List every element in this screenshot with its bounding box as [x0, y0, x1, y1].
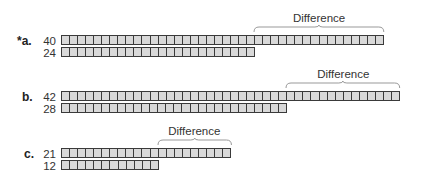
unit-cell	[134, 48, 141, 56]
unit-cell	[126, 149, 133, 157]
unit-cell	[151, 161, 158, 169]
unit-cell	[207, 92, 214, 100]
unit-cell	[207, 48, 214, 56]
unit-cell	[239, 48, 246, 56]
unit-cell	[247, 48, 254, 56]
unit-cell	[110, 149, 117, 157]
unit-cell	[191, 48, 198, 56]
unit-cell	[110, 36, 117, 44]
bottom-bar	[61, 160, 159, 170]
unit-cell	[126, 92, 133, 100]
unit-cell	[102, 48, 109, 56]
unit-cell	[86, 104, 93, 112]
unit-cell	[110, 48, 117, 56]
unit-cell	[70, 161, 77, 169]
top-value: 42	[36, 91, 56, 103]
unit-cell	[102, 92, 109, 100]
unit-cell	[151, 36, 158, 44]
unit-cell	[279, 104, 286, 112]
unit-cell	[78, 104, 85, 112]
unit-cell	[263, 36, 270, 44]
unit-cell	[263, 104, 270, 112]
unit-cell	[94, 161, 101, 169]
unit-cell	[127, 161, 134, 169]
bottom-value: 24	[36, 47, 56, 59]
unit-cell	[328, 36, 335, 44]
unit-cell	[215, 48, 222, 56]
unit-cell	[223, 36, 230, 44]
unit-cell	[191, 36, 198, 44]
unit-cell	[86, 92, 93, 100]
unit-cell	[118, 149, 125, 157]
unit-cell	[78, 92, 85, 100]
unit-cell	[167, 92, 174, 100]
unit-cell	[255, 92, 262, 100]
unit-cell	[102, 149, 109, 157]
unit-cell	[231, 36, 238, 44]
unit-cell	[86, 161, 93, 169]
unit-cell	[134, 92, 141, 100]
bottom-bar	[61, 103, 287, 113]
unit-cell	[271, 92, 278, 100]
unit-cell	[174, 104, 181, 112]
unit-cell	[207, 104, 214, 112]
unit-cell	[94, 48, 101, 56]
unit-cell	[102, 161, 109, 169]
top-bar	[61, 91, 400, 101]
unit-cell	[360, 92, 367, 100]
unit-cell	[271, 36, 278, 44]
unit-cell	[118, 104, 125, 112]
unit-cell	[344, 36, 351, 44]
unit-cell	[191, 149, 198, 157]
unit-cell	[142, 36, 149, 44]
unit-cell	[336, 36, 343, 44]
unit-cell	[191, 104, 198, 112]
unit-cell	[183, 149, 190, 157]
unit-cell	[166, 104, 173, 112]
unit-cell	[199, 104, 206, 112]
difference-label: Difference	[293, 12, 345, 24]
unit-cell	[134, 104, 141, 112]
difference-label: Difference	[317, 68, 369, 80]
unit-cell	[110, 161, 117, 169]
unit-cell	[167, 48, 174, 56]
unit-cell	[223, 104, 230, 112]
unit-cell	[191, 92, 198, 100]
unit-cell	[368, 36, 375, 44]
unit-cell	[239, 92, 246, 100]
unit-cell	[119, 161, 126, 169]
unit-cell	[143, 161, 150, 169]
unit-cell	[255, 104, 262, 112]
unit-cell	[102, 36, 109, 44]
bottom-value: 12	[36, 160, 56, 172]
unit-cell	[126, 104, 133, 112]
unit-cell	[215, 36, 222, 44]
unit-cell	[150, 104, 157, 112]
unit-cell	[295, 36, 302, 44]
unit-cell	[215, 92, 222, 100]
unit-cell	[62, 104, 69, 112]
top-bar	[61, 35, 384, 45]
unit-cell	[376, 36, 383, 44]
unit-cell	[352, 92, 359, 100]
unit-cell	[94, 36, 101, 44]
unit-cell	[336, 92, 343, 100]
unit-cell	[142, 104, 149, 112]
unit-cell	[70, 48, 77, 56]
unit-cell	[175, 36, 182, 44]
unit-cell	[151, 92, 158, 100]
bottom-value: 28	[36, 103, 56, 115]
unit-cell	[287, 36, 294, 44]
unit-cell	[151, 149, 158, 157]
top-bar	[61, 148, 231, 158]
unit-cell	[279, 36, 286, 44]
unit-cell	[199, 48, 206, 56]
unit-cell	[78, 149, 85, 157]
unit-cell	[255, 36, 262, 44]
unit-cell	[239, 104, 246, 112]
unit-cell	[94, 149, 101, 157]
difference-label: Difference	[168, 125, 220, 137]
unit-cell	[231, 48, 238, 56]
unit-cell	[118, 48, 125, 56]
unit-cell	[86, 149, 93, 157]
